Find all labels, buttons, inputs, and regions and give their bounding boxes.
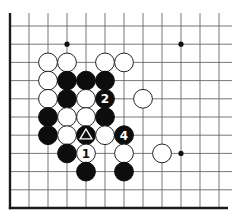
stone-disc xyxy=(77,108,96,127)
stone-disc xyxy=(96,71,115,90)
black-stone xyxy=(96,108,115,127)
stone-disc xyxy=(96,126,115,145)
stone-disc xyxy=(58,126,77,145)
black-stone xyxy=(77,162,96,181)
stone-disc xyxy=(77,89,96,108)
white-stone xyxy=(39,89,58,108)
stone-disc xyxy=(77,162,96,181)
black-stone xyxy=(39,126,58,145)
stone-disc xyxy=(115,162,134,181)
white-stone: 1 xyxy=(77,144,96,163)
white-stone xyxy=(58,53,77,72)
white-stone xyxy=(96,53,115,72)
white-stone xyxy=(115,144,134,163)
black-stone: 4 xyxy=(115,126,134,145)
white-stone xyxy=(39,53,58,72)
stone-disc xyxy=(39,53,58,72)
stone-disc xyxy=(115,53,134,72)
stone-disc xyxy=(58,53,77,72)
move-number-label: 2 xyxy=(101,92,109,106)
stone-disc xyxy=(134,89,153,108)
stone-disc xyxy=(96,53,115,72)
white-stone xyxy=(58,108,77,127)
black-stone xyxy=(96,71,115,90)
white-stone xyxy=(153,144,172,163)
stone-disc xyxy=(39,71,58,90)
white-stone xyxy=(96,126,115,145)
black-stone xyxy=(58,89,77,108)
black-stone xyxy=(39,108,58,127)
stone-disc xyxy=(115,144,134,163)
white-stone xyxy=(134,89,153,108)
black-stone xyxy=(115,162,134,181)
white-stone xyxy=(77,89,96,108)
stone-disc xyxy=(58,89,77,108)
white-stone xyxy=(58,126,77,145)
stone-disc xyxy=(153,144,172,163)
stone-disc xyxy=(39,89,58,108)
stone-disc xyxy=(39,126,58,145)
black-stone xyxy=(58,144,77,163)
stone-disc xyxy=(58,108,77,127)
star-point xyxy=(178,42,183,47)
go-board: 241 xyxy=(0,0,232,215)
stone-disc xyxy=(58,144,77,163)
black-stone xyxy=(77,71,96,90)
white-stone xyxy=(39,71,58,90)
star-point xyxy=(178,151,183,156)
black-stone xyxy=(77,126,96,145)
black-stone xyxy=(58,71,77,90)
white-stone xyxy=(77,108,96,127)
stone-disc xyxy=(39,108,58,127)
stone-disc xyxy=(96,108,115,127)
move-number-label: 4 xyxy=(120,129,128,143)
move-number-label: 1 xyxy=(82,147,90,161)
star-point xyxy=(64,42,69,47)
stone-disc xyxy=(58,71,77,90)
stone-disc xyxy=(77,71,96,90)
white-stone xyxy=(115,53,134,72)
black-stone: 2 xyxy=(96,89,115,108)
